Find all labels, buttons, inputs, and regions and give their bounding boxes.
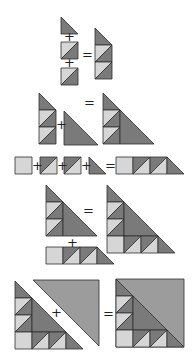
plus-sign: + — [81, 159, 92, 172]
hst-square-piece — [61, 68, 78, 85]
large-triangle-piece — [64, 111, 98, 145]
light-square-piece — [15, 157, 32, 174]
plus-sign: + — [51, 306, 62, 319]
row-piece — [46, 247, 114, 264]
quilt-assembly-diagram: .d{fill:#7a7a7a;stroke:#2e2e2e;stroke-wi… — [0, 0, 193, 357]
plus-sign: + — [64, 56, 75, 69]
step-5 — [15, 279, 184, 349]
pieced-triangle-result — [107, 185, 175, 253]
plus-sign: + — [56, 118, 67, 131]
plus-sign: + — [67, 236, 78, 249]
row-result — [116, 157, 184, 174]
equals-sign: = — [84, 96, 95, 109]
plus-sign: + — [32, 159, 43, 172]
completed-block-result — [116, 279, 184, 347]
equals-sign: = — [103, 307, 114, 320]
step-4 — [46, 185, 175, 264]
equals-sign: = — [83, 204, 94, 217]
equals-sign: = — [105, 159, 116, 172]
diagram-canvas: .d{fill:#7a7a7a;stroke:#2e2e2e;stroke-wi… — [0, 0, 193, 357]
plus-sign: + — [57, 159, 68, 172]
column-piece — [39, 93, 56, 144]
plus-sign: + — [64, 30, 75, 43]
column-result — [95, 28, 112, 79]
equals-sign: = — [82, 48, 93, 61]
stepped-triangle-result — [103, 93, 154, 144]
